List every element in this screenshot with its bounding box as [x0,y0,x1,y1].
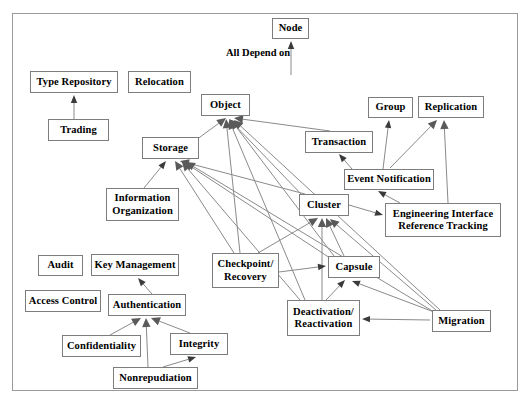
node-box-eirt[interactable]: Engineering Interface Reference Tracking [385,203,501,237]
node-box-key_mgmt[interactable]: Key Management [91,254,179,276]
node-box-migration[interactable]: Migration [432,310,491,332]
node-box-capsule[interactable]: Capsule [328,256,380,278]
node-box-deact[interactable]: Deactivation/ Reactivation [287,300,360,336]
node-box-audit[interactable]: Audit [38,255,83,276]
node-box-checkpoint[interactable]: Checkpoint/ Recovery [212,253,279,288]
node-box-confid[interactable]: Confidentiality [62,335,141,357]
node-box-object[interactable]: Object [201,94,250,116]
node-box-storage[interactable]: Storage [142,137,199,159]
node-box-replication[interactable]: Replication [418,96,484,118]
all-depend-on-label: All Depend on [226,47,290,58]
node-box-trading[interactable]: Trading [48,119,109,141]
node-box-access_ctrl[interactable]: Access Control [25,290,101,312]
node-box-node[interactable]: Node [272,18,309,39]
node-box-type_repo[interactable]: Type Repository [30,71,118,93]
node-box-relocation[interactable]: Relocation [128,71,191,93]
node-box-group[interactable]: Group [368,97,413,118]
node-box-integrity[interactable]: Integrity [170,333,228,355]
diagram-canvas: All Depend on NodeType RepositoryRelocat… [0,0,531,403]
node-box-nonrep[interactable]: Nonrepudiation [113,367,198,389]
node-box-event_notif[interactable]: Event Notification [344,169,434,190]
node-box-transaction[interactable]: Transaction [305,131,373,153]
node-box-auth[interactable]: Authentication [108,294,186,316]
node-box-info_org[interactable]: Information Organization [106,188,179,221]
node-box-cluster[interactable]: Cluster [299,194,349,216]
